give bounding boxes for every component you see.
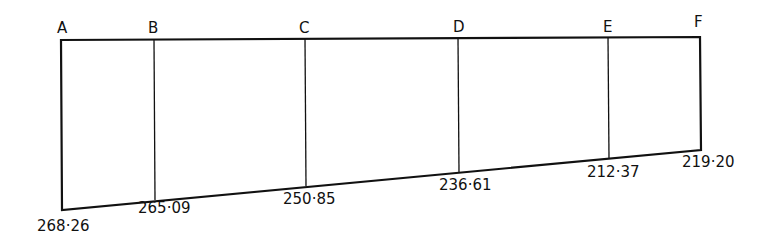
value-f: 219·20 [682,153,735,171]
divider-d [458,38,459,172]
value-a: 268·26 [37,217,90,235]
divider-e [608,37,609,158]
value-e: 212·37 [587,163,640,181]
point-label-b: B [148,19,158,37]
point-label-e: E [603,18,612,36]
point-label-f: F [694,13,703,31]
value-d: 236·61 [439,176,492,194]
divider-b [154,40,155,200]
point-label-a: A [57,19,68,37]
outline-shape [61,37,701,210]
divider-c [305,39,306,186]
section-diagram: A B C D E F 268·26 265·09 250·85 236·61 … [0,0,759,238]
point-label-d: D [453,18,465,36]
value-b: 265·09 [138,199,191,217]
value-c: 250·85 [283,190,336,208]
point-label-c: C [299,19,309,37]
